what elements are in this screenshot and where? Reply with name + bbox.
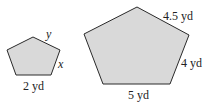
large-bottom-side-label: 5 yd [128, 89, 149, 101]
large-right-side-label: 4 yd [181, 57, 202, 69]
similar-pentagons-diagram: y x 2 yd 4.5 yd 4 yd 5 yd [0, 0, 207, 103]
small-pentagon [7, 37, 60, 75]
large-top-right-side-label: 4.5 yd [163, 10, 193, 22]
small-side-y-label: y [46, 28, 51, 40]
small-side-x-label: x [58, 58, 63, 70]
small-bottom-side-label: 2 yd [23, 80, 44, 92]
